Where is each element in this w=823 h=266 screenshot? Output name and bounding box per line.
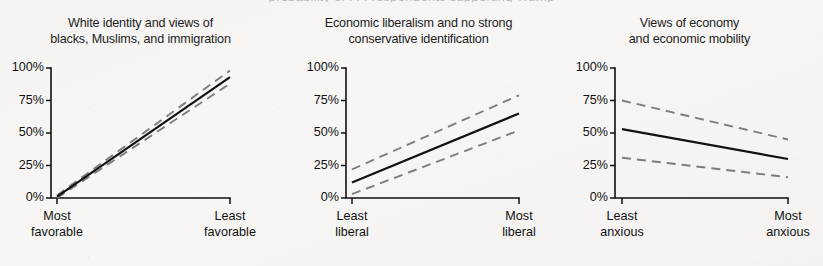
- plot-area-economic-liberalism: 100% 75% 50% 25% 0% Least liberal Most l…: [281, 52, 556, 266]
- panel-title-white-identity: White identity and views of blacks, Musl…: [0, 16, 281, 47]
- panel-title-line-2: blacks, Muslims, and immigration: [0, 32, 281, 48]
- ytick-label-0: 0%: [590, 190, 608, 204]
- chart-panel-economic-liberalism: Economic liberalism and no strong conser…: [281, 0, 556, 266]
- ci-upper-line: [352, 95, 519, 169]
- xtick-label-right-line-1: Most: [774, 209, 802, 223]
- xtick-label-right-line-1: Most: [505, 209, 533, 223]
- xtick-label-left-line-2: liberal: [335, 225, 369, 239]
- plot-area-white-identity: 100% 75% 50% 25% 0% Most favorable Least: [0, 52, 281, 266]
- ytick-label-0: 0%: [321, 190, 339, 204]
- xtick-label-left-line-2: favorable: [31, 225, 83, 239]
- ytick-label-75: 75%: [583, 93, 608, 107]
- ytick-label-0: 0%: [26, 190, 44, 204]
- panel-title-line-2: conservative identification: [281, 32, 556, 48]
- predicted-probability-line: [57, 77, 230, 197]
- xtick-label-right-line-2: anxious: [766, 225, 809, 239]
- ci-upper-line: [57, 71, 230, 196]
- xtick-label-right-line-2: liberal: [502, 225, 536, 239]
- ci-lower-line: [352, 130, 519, 194]
- ytick-label-75: 75%: [314, 93, 339, 107]
- ytick-label-50: 50%: [19, 125, 44, 139]
- panel-title-line-1: Economic liberalism and no strong: [281, 16, 556, 32]
- predicted-probability-line: [622, 129, 788, 159]
- panel-title-economic-liberalism: Economic liberalism and no strong conser…: [281, 16, 556, 47]
- ytick-label-50: 50%: [314, 125, 339, 139]
- panel-title-views-of-economy: Views of economy and economic mobility: [556, 16, 823, 47]
- ytick-label-25: 25%: [19, 158, 44, 172]
- axis-lines: [51, 68, 230, 198]
- xtick-label-left-line-1: Most: [43, 209, 71, 223]
- panel-title-line-1: Views of economy: [556, 16, 823, 32]
- xtick-label-left-line-1: Least: [337, 209, 368, 223]
- chart-panel-views-of-economy: Views of economy and economic mobility 1…: [556, 0, 823, 266]
- xtick-label-right-line-1: Least: [215, 209, 246, 223]
- ytick-label-100: 100%: [12, 60, 44, 74]
- xtick-label-right-line-2: favorable: [204, 225, 256, 239]
- ytick-label-100: 100%: [576, 60, 608, 74]
- axis-lines: [346, 68, 519, 198]
- panel-title-line-2: and economic mobility: [556, 32, 823, 48]
- ci-lower-line: [57, 84, 230, 198]
- ytick-label-25: 25%: [314, 158, 339, 172]
- xtick-label-left-line-2: anxious: [600, 225, 643, 239]
- ytick-label-75: 75%: [19, 93, 44, 107]
- ytick-label-25: 25%: [583, 158, 608, 172]
- ytick-label-50: 50%: [583, 125, 608, 139]
- xtick-label-left-line-1: Least: [607, 209, 638, 223]
- plot-area-views-of-economy: 100% 75% 50% 25% 0% Least anxious Most a…: [556, 52, 823, 266]
- panel-title-line-1: White identity and views of: [0, 16, 281, 32]
- chart-panel-group: White identity and views of blacks, Musl…: [0, 0, 823, 266]
- chart-panel-white-identity: White identity and views of blacks, Musl…: [0, 0, 281, 266]
- predicted-probability-line: [352, 114, 519, 183]
- ytick-label-100: 100%: [307, 60, 339, 74]
- ci-lower-line: [622, 158, 788, 178]
